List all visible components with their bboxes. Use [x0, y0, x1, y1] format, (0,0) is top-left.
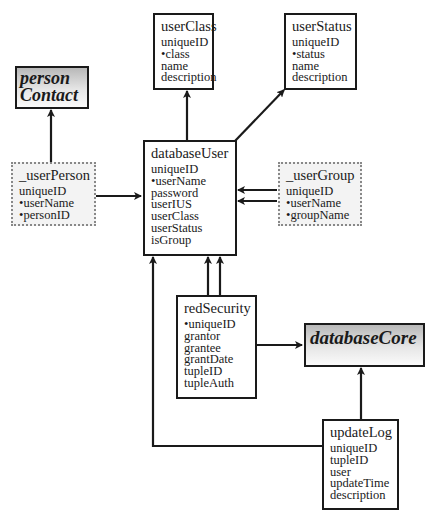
- entity-title: databaseCore: [306, 325, 423, 350]
- entity-title: _userPerson: [13, 164, 94, 183]
- entity-field: isGroup: [151, 235, 235, 247]
- entity-user-person[interactable]: _userPerson uniqueID •userName •personID: [11, 162, 96, 226]
- entity-user-class[interactable]: userClass uniqueID •class name descripti…: [153, 13, 214, 90]
- entity-field: •personID: [19, 210, 94, 222]
- entity-field: description: [292, 72, 355, 84]
- entity-user-status[interactable]: userStatus uniqueID •status name descrip…: [284, 13, 357, 90]
- entity-title-line: Contact: [20, 87, 84, 104]
- entity-database-user[interactable]: databaseUser uniqueID •userName password…: [143, 140, 237, 256]
- entity-field: •groupName: [286, 210, 360, 222]
- entity-field: tupleAuth: [184, 378, 255, 390]
- entity-title: userClass: [155, 15, 212, 34]
- entity-title: redSecurity: [178, 297, 255, 316]
- entity-title: databaseUser: [145, 142, 235, 161]
- entity-title: userStatus: [286, 15, 355, 34]
- entity-title: _userGroup: [280, 164, 360, 183]
- entity-title: updateLog: [324, 421, 397, 440]
- entity-user-group[interactable]: _userGroup uniqueID •userName •groupName: [278, 162, 362, 226]
- entity-red-security[interactable]: redSecurity •uniqueID grantor grantee gr…: [176, 295, 257, 399]
- entity-update-log[interactable]: updateLog uniqueID tupleID user updateTi…: [322, 419, 399, 510]
- arrow-databaseuser-to-userstatus: [235, 90, 284, 141]
- entity-field: description: [161, 72, 212, 84]
- entity-database-core[interactable]: databaseCore: [304, 323, 425, 367]
- entity-field: description: [330, 490, 397, 502]
- entity-person-contact[interactable]: person Contact: [15, 66, 89, 109]
